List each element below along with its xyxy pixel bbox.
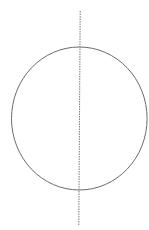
diagram-canvas	[0, 0, 149, 230]
circle-with-axis-diagram	[0, 0, 149, 230]
vertical-dotted-axis-line	[79, 11, 80, 226]
